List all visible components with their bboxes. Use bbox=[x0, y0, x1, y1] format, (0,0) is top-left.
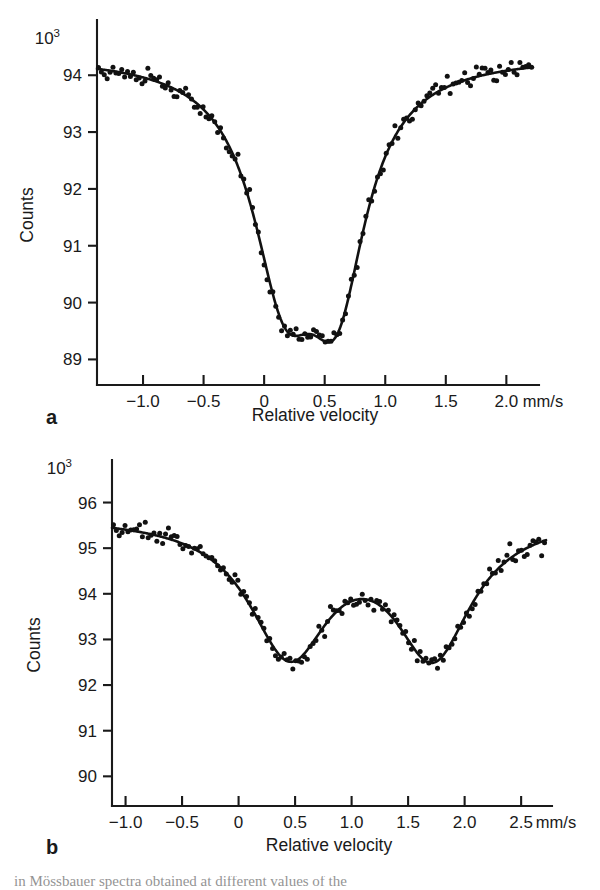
data-point bbox=[316, 624, 321, 629]
data-point bbox=[435, 666, 440, 671]
x-tick-label: −1.0 bbox=[126, 392, 160, 411]
data-point bbox=[539, 553, 544, 558]
x-tick-label: −1.0 bbox=[109, 813, 143, 832]
y-axis-title: Counts bbox=[17, 187, 37, 243]
y-tick-group: 899091929394 bbox=[63, 66, 97, 369]
x-tick-label: 1.0 bbox=[340, 813, 364, 832]
y-tick-label: 96 bbox=[78, 494, 97, 513]
data-point bbox=[322, 634, 327, 639]
data-point bbox=[154, 539, 159, 544]
data-point bbox=[299, 660, 304, 665]
chart-panel-a: 899091929394103−1.0−0.500.51.01.52.0mm/s… bbox=[0, 0, 600, 440]
data-point bbox=[487, 567, 492, 572]
x-tick-label: 2.0 bbox=[495, 392, 519, 411]
x-tick-label: 1.5 bbox=[434, 392, 458, 411]
y-tick-label: 91 bbox=[63, 237, 82, 256]
x-tick-label: −0.5 bbox=[187, 392, 221, 411]
data-point bbox=[515, 72, 520, 77]
y-axis-exponent-superscript: 3 bbox=[66, 457, 72, 469]
data-point bbox=[110, 65, 115, 70]
data-point bbox=[360, 592, 365, 597]
data-point bbox=[415, 658, 420, 663]
data-point bbox=[383, 602, 388, 607]
axes bbox=[112, 460, 552, 806]
panel-letter-b: b bbox=[46, 836, 58, 858]
y-tick-label: 93 bbox=[78, 630, 97, 649]
data-point bbox=[145, 66, 150, 71]
data-point bbox=[503, 72, 508, 77]
data-point bbox=[163, 531, 168, 536]
y-tick-label: 93 bbox=[63, 123, 82, 142]
fitted-curve bbox=[97, 67, 533, 342]
data-point bbox=[235, 152, 240, 157]
data-point bbox=[509, 60, 514, 65]
data-point bbox=[462, 70, 467, 75]
figure-caption-cropped: in Mössbauer spectra obtained at differe… bbox=[0, 876, 600, 890]
y-tick-label: 94 bbox=[63, 66, 82, 85]
data-point bbox=[290, 667, 295, 672]
data-point bbox=[340, 611, 345, 616]
data-point bbox=[198, 544, 203, 549]
data-point bbox=[160, 541, 165, 546]
x-tick-group: −1.0−0.500.51.01.52.02.5 bbox=[109, 796, 533, 832]
mossbauer-figure: 899091929394103−1.0−0.500.51.01.52.0mm/s… bbox=[0, 0, 600, 890]
chart-panel-b: 90919293949596103−1.0−0.500.51.01.52.02.… bbox=[0, 440, 600, 890]
data-point bbox=[468, 83, 473, 88]
panel-letter-a: a bbox=[46, 406, 58, 428]
data-point bbox=[157, 75, 162, 80]
data-point bbox=[497, 64, 502, 69]
data-point bbox=[525, 552, 530, 557]
x-tick-label: −0.5 bbox=[165, 813, 199, 832]
data-point bbox=[496, 558, 501, 563]
y-tick-group: 90919293949596 bbox=[78, 494, 112, 787]
x-axis-title: Relative velocity bbox=[252, 405, 379, 425]
data-point bbox=[282, 651, 287, 656]
data-point bbox=[412, 638, 417, 643]
data-point bbox=[189, 550, 194, 555]
fitted-curve bbox=[112, 528, 546, 663]
y-tick-label: 90 bbox=[78, 767, 97, 786]
data-point bbox=[279, 328, 284, 333]
data-point bbox=[392, 123, 397, 128]
y-tick-label: 89 bbox=[63, 350, 82, 369]
data-point bbox=[507, 541, 512, 546]
data-point bbox=[166, 525, 171, 530]
data-point bbox=[366, 603, 371, 608]
data-point bbox=[198, 111, 203, 116]
data-point bbox=[122, 75, 127, 80]
data-point bbox=[143, 520, 148, 525]
y-tick-label: 90 bbox=[63, 294, 82, 313]
data-point bbox=[494, 78, 499, 83]
y-axis-exponent-base: 103 bbox=[47, 457, 72, 478]
data-point bbox=[299, 337, 304, 342]
data-point bbox=[517, 60, 522, 65]
y-axis-title: Counts bbox=[24, 617, 44, 673]
data-point bbox=[111, 522, 116, 527]
panel-a-svg: 899091929394103−1.0−0.500.51.01.52.0mm/s… bbox=[0, 0, 600, 440]
x-tick-label: 1.5 bbox=[396, 813, 420, 832]
panel-b-svg: 90919293949596103−1.0−0.500.51.01.52.02.… bbox=[0, 440, 600, 890]
data-point bbox=[305, 657, 310, 662]
data-point bbox=[105, 76, 110, 81]
data-point bbox=[174, 94, 179, 99]
data-point bbox=[294, 326, 299, 331]
data-point bbox=[120, 530, 125, 535]
data-point bbox=[123, 523, 128, 528]
y-tick-label: 95 bbox=[78, 539, 97, 558]
x-axis-title: Relative velocity bbox=[266, 835, 393, 855]
data-point bbox=[445, 74, 450, 79]
y-tick-label: 92 bbox=[63, 180, 82, 199]
x-tick-label: 0 bbox=[234, 813, 243, 832]
data-point bbox=[140, 534, 145, 539]
y-tick-label: 91 bbox=[78, 722, 97, 741]
data-point bbox=[504, 553, 509, 558]
y-axis-exponent-superscript: 3 bbox=[54, 27, 60, 39]
data-point bbox=[137, 522, 142, 527]
y-tick-label: 92 bbox=[78, 676, 97, 695]
data-point bbox=[287, 656, 292, 661]
data-point bbox=[474, 64, 479, 69]
data-point bbox=[483, 66, 488, 71]
data-point bbox=[371, 608, 376, 613]
data-point-group bbox=[96, 60, 534, 344]
x-axis-unit-label: mm/s bbox=[523, 392, 563, 410]
